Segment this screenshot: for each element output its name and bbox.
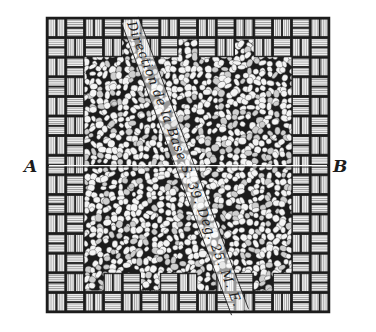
point-label-a: A	[24, 158, 37, 175]
engraving-figure: Direction de la Base S. 39. Deg. 25. M. …	[0, 0, 376, 332]
point-label-b: B	[333, 158, 347, 175]
